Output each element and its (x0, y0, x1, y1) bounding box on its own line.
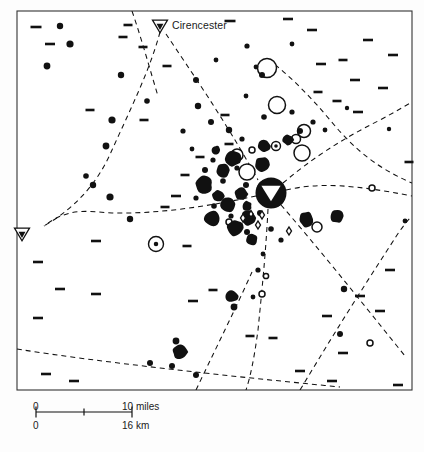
open-circle-symbol (369, 185, 375, 191)
findspot-symbol (108, 116, 115, 123)
findspot-symbol (261, 114, 267, 120)
findspot-symbol (387, 127, 391, 131)
findspot-symbol (403, 219, 408, 224)
circle-dot-centre (274, 144, 278, 148)
findspot-symbol (144, 98, 150, 104)
findspot-symbol (220, 178, 226, 184)
findspot-symbol (255, 267, 260, 272)
findspot-symbol (180, 128, 185, 133)
findspot-symbol (261, 252, 266, 257)
findspot-symbol (127, 216, 133, 222)
map-border (17, 11, 412, 390)
findspot-symbol (323, 128, 328, 133)
findspot-symbol (268, 226, 274, 232)
findspot-symbol (310, 119, 315, 124)
findspot-symbol (228, 213, 233, 218)
findspot-symbol (251, 295, 256, 300)
findspot-symbol (106, 193, 113, 200)
findspot-symbol (211, 203, 217, 209)
open-circle-symbol (312, 222, 322, 232)
findspot-symbol (297, 128, 303, 134)
findspot-symbol (231, 304, 238, 311)
open-circle-symbol (263, 273, 268, 278)
findspot-symbol (244, 229, 250, 235)
findspot-symbol (239, 136, 244, 141)
scale-label-miles-zero: 0 (33, 401, 39, 412)
map-frame (17, 11, 412, 390)
open-circle-symbol (249, 147, 255, 153)
findspot-symbol (210, 157, 215, 162)
findspot-symbol (147, 360, 153, 366)
open-circle-symbol (239, 164, 255, 180)
findspot-symbol (66, 40, 73, 47)
findspot-symbol (345, 106, 349, 110)
circle-dot-centre (154, 242, 159, 247)
findspot-symbol (173, 338, 180, 345)
open-circle-symbol (269, 97, 286, 114)
findspot-symbol (290, 42, 295, 47)
findspot-symbol (195, 103, 201, 109)
large-site-symbol (331, 210, 344, 223)
findspot-symbol (193, 372, 199, 378)
findspot-symbol (57, 23, 63, 29)
scale-label-km-zero: 0 (33, 420, 39, 431)
findspot-symbol (44, 63, 51, 70)
findspot-symbol (90, 182, 96, 188)
findspot-symbol (278, 237, 283, 242)
place-label-cirencester: Cirencester (172, 19, 227, 31)
findspot-symbol (83, 173, 89, 179)
map-canvas (0, 0, 424, 452)
findspot-symbol (103, 143, 110, 150)
open-circle-symbol (294, 145, 310, 161)
findspot-symbol (243, 182, 249, 188)
findspot-symbol (208, 119, 214, 125)
scale-bar (36, 407, 132, 418)
scale-label-miles-max: 10 miles (122, 401, 159, 412)
findspot-symbol (244, 94, 249, 99)
scale-label-km-max: 16 km (122, 420, 149, 431)
findspot-symbol (341, 286, 347, 292)
findspot-symbol (202, 167, 208, 173)
findspot-symbol (337, 331, 343, 337)
findspot-symbol (289, 109, 294, 114)
findspot-symbol (254, 65, 259, 70)
findspot-symbol (169, 363, 175, 369)
findspot-symbol (234, 165, 239, 170)
findspot-symbol (193, 195, 198, 200)
findspot-symbol (214, 58, 219, 63)
open-circle-symbol (367, 340, 373, 346)
findspot-symbol (118, 72, 124, 78)
findspot-symbol (244, 43, 249, 48)
findspot-symbol (193, 77, 199, 83)
distribution-map-figure: Cirencester 0 10 miles 0 16 km (0, 0, 424, 452)
findspot-symbol (259, 72, 265, 78)
findspot-symbol (226, 127, 232, 133)
open-circle-symbol (259, 291, 265, 297)
findspot-symbol (190, 147, 195, 152)
